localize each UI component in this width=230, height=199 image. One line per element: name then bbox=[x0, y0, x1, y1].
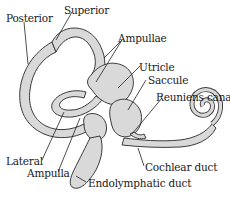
label-saccule: Saccule bbox=[148, 75, 188, 86]
label-superior: Superior bbox=[64, 5, 109, 16]
label-lateral: Lateral bbox=[6, 156, 43, 167]
label-ampulla: Ampulla bbox=[27, 168, 70, 179]
inner-ear-diagram: Posterior Superior Ampullae Utricle Sacc… bbox=[0, 0, 230, 199]
label-reuniens-canal: Reuniens canal bbox=[156, 92, 230, 103]
label-posterior: Posterior bbox=[6, 13, 53, 24]
posterior-canal bbox=[20, 42, 86, 138]
ampulla-body bbox=[84, 113, 107, 140]
lateral-canal bbox=[52, 91, 102, 117]
label-utricle: Utricle bbox=[139, 62, 175, 73]
label-cochlear-duct: Cochlear duct bbox=[145, 162, 217, 173]
label-ampullae: Ampullae bbox=[118, 33, 167, 44]
label-endolymphatic-duct: Endolymphatic duct bbox=[88, 178, 191, 189]
saccule bbox=[110, 99, 142, 137]
